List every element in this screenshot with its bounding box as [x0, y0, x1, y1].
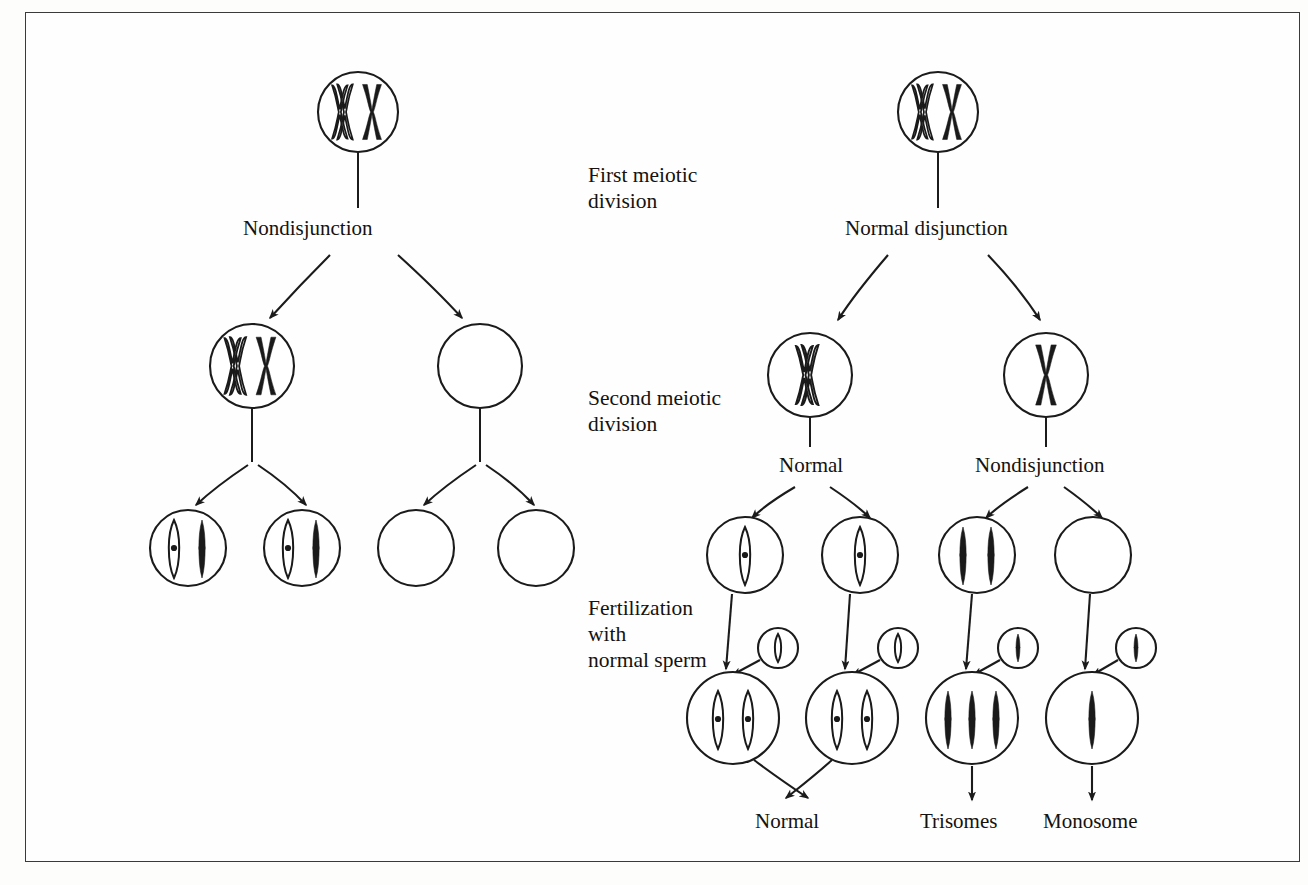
zygote-cell-3 [926, 672, 1018, 764]
fertilization-label-line3: normal sperm [588, 648, 707, 672]
right-first-division-label: Normal disjunction [845, 216, 1008, 240]
first-division-label-line1: First meiotic [588, 163, 697, 187]
zygote-cell-1 [687, 672, 779, 764]
left-arrow-to-gamete-4 [486, 465, 534, 505]
meiosis-diagram: First meiotic division Second meiotic di… [0, 0, 1308, 885]
outcome-label-monosome: Monosome [1043, 809, 1138, 833]
left-gamete-cell-1 [150, 510, 226, 586]
right-second-division-label-nondisjunction: Nondisjunction [975, 453, 1105, 477]
outcome-arrow-normal-left [754, 760, 808, 798]
fertilization-label-line2: with [588, 622, 626, 646]
left-first-division-label: Nondisjunction [243, 216, 373, 240]
fertilization-arrow-4 [1085, 594, 1090, 669]
left-parent-cell [318, 72, 398, 152]
right-arrow-to-daughter-1 [838, 255, 888, 320]
right-arrow-to-daughter-2 [988, 255, 1040, 320]
right-arrow-to-gamete-4 [1064, 487, 1102, 518]
sperm-cell-4 [1116, 628, 1156, 668]
second-division-label-line2: division [588, 412, 658, 436]
sperm-cell-1 [758, 628, 798, 668]
second-division-label-line1: Second meiotic [588, 386, 721, 410]
stage-label-first-meiotic-division: First meiotic division [588, 163, 697, 213]
left-daughter-cell-1 [210, 324, 294, 408]
left-arrow-to-daughter-1 [270, 255, 330, 318]
left-arrow-to-daughter-2 [398, 255, 462, 318]
right-daughter-cell-2 [1004, 333, 1088, 417]
right-gamete-cell-1 [707, 517, 783, 593]
left-gamete-cell-4 [498, 510, 574, 586]
fertilization-arrow-2 [845, 594, 850, 669]
stage-label-second-meiotic-division: Second meiotic division [588, 386, 721, 436]
left-daughter-cell-2 [438, 324, 522, 408]
stage-label-fertilization: Fertilization with normal sperm [588, 596, 707, 672]
first-division-label-line2: division [588, 189, 658, 213]
outcome-label-normal: Normal [755, 809, 819, 833]
sperm-cell-3 [998, 628, 1038, 668]
left-arrow-to-gamete-2 [258, 465, 306, 505]
left-gamete-cell-3 [378, 510, 454, 586]
right-gamete-cell-4 [1055, 517, 1131, 593]
right-daughter-cell-1 [768, 333, 852, 417]
left-arrow-to-gamete-1 [196, 465, 248, 505]
zygote-cell-4 [1046, 672, 1138, 764]
zygote-cell-2 [806, 672, 898, 764]
outcome-arrow-normal-right [786, 760, 832, 798]
right-second-division-label-normal: Normal [779, 453, 843, 477]
left-arrow-to-gamete-3 [424, 465, 476, 505]
fertilization-arrow-1 [726, 594, 732, 669]
figure-page: First meiotic division Second meiotic di… [0, 0, 1308, 885]
fertilization-arrow-3 [966, 594, 972, 669]
outcome-label-trisomes: Trisomes [920, 809, 997, 833]
left-gamete-cell-2 [264, 510, 340, 586]
right-parent-cell [898, 72, 978, 152]
right-arrow-to-gamete-2 [830, 487, 870, 518]
right-arrow-to-gamete-1 [752, 487, 795, 518]
fertilization-label-line1: Fertilization [588, 596, 693, 620]
right-gamete-cell-3 [939, 517, 1015, 593]
right-gamete-cell-2 [822, 517, 898, 593]
right-arrow-to-gamete-3 [986, 487, 1028, 518]
sperm-cell-2 [878, 628, 918, 668]
